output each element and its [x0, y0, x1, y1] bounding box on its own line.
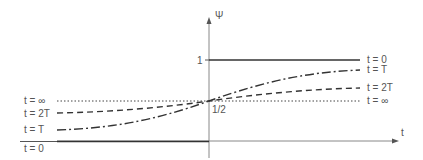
- right-label-t-2T: t = 2T: [367, 82, 393, 93]
- right-label-t-T: t = T: [367, 64, 387, 75]
- y-axis-arrow-icon: [207, 17, 212, 24]
- x-axis-label: t: [401, 127, 404, 138]
- left-label-t-0: t = 0: [24, 143, 44, 154]
- left-label-t-inf: t = ∞: [24, 95, 45, 106]
- y-tick-one-label: 1: [197, 55, 203, 66]
- y-axis-label: Ψ: [215, 10, 223, 21]
- x-axis-arrow-icon: [392, 139, 399, 144]
- y-axis: [207, 17, 212, 158]
- midpoint-label: 1/2: [212, 104, 226, 115]
- left-label-t-T: t = T: [24, 124, 44, 135]
- diffusion-profile-diagram: Ψ t 1 1/2 t = ∞ t = 2T t = T t = 0 t = 0…: [0, 0, 423, 160]
- left-label-t-2T: t = 2T: [24, 108, 50, 119]
- right-label-t-inf: t = ∞: [367, 95, 388, 106]
